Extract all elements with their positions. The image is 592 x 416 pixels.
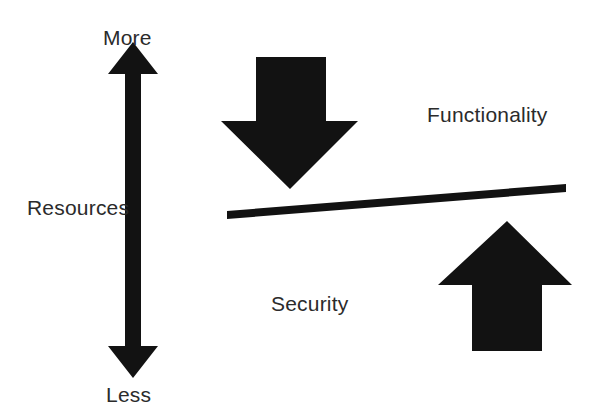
axis-title-resources: Resources	[27, 197, 129, 218]
diagram-canvas: More Less Resources Functionality Securi…	[0, 0, 592, 416]
up-arrow-icon	[432, 218, 577, 354]
label-security: Security	[271, 293, 348, 314]
label-functionality: Functionality	[427, 104, 548, 125]
axis-tick-label-less: Less	[106, 384, 151, 405]
down-arrow-icon	[218, 55, 360, 191]
axis-tick-label-more: More	[103, 27, 152, 48]
